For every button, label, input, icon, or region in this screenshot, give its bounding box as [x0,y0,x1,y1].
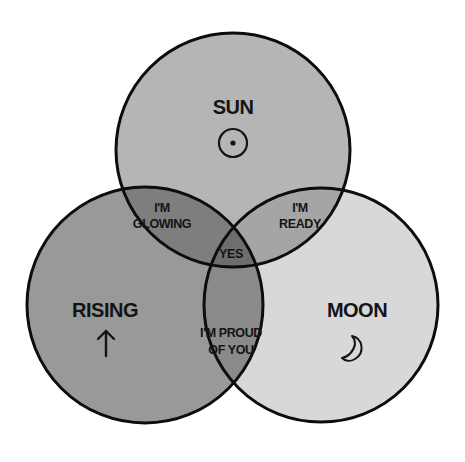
rising-moon-line2: OF YOU [208,343,254,357]
moon-label: MOON [327,299,387,321]
venn-svg: SUN RISING MOON I'M GLOWING I'M READY YE… [0,0,465,462]
sun-moon-line1: I'M [292,201,308,215]
sun-rising-line2: GLOWING [133,217,191,231]
rising-label: RISING [72,299,138,321]
sun-label: SUN [213,96,254,118]
sun-moon-line2: READY [279,217,322,231]
center-label: YES [219,247,243,261]
sun-rising-line1: I'M [154,201,170,215]
venn-diagram: SUN RISING MOON I'M GLOWING I'M READY YE… [0,0,465,462]
rising-moon-line1: I'M PROUD [200,326,262,340]
